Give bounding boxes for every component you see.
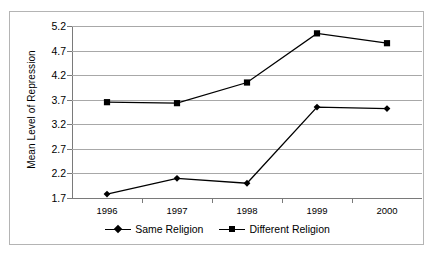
square-marker-icon (104, 99, 110, 105)
square-marker-icon (229, 226, 236, 233)
chart-plot-wrapper: Mean Level of Repression 1.72.22.73.23.7… (10, 12, 425, 246)
y-axis-tick-label: 3.2 (32, 118, 66, 130)
x-axis-tick-labels: 19961997199819992000 (72, 205, 422, 219)
x-axis-tick-mark (282, 198, 283, 203)
legend-entry[interactable]: Different Religion (219, 223, 329, 235)
square-marker-icon (384, 40, 390, 46)
square-marker-icon (244, 79, 250, 85)
diamond-marker-icon (113, 224, 121, 232)
x-axis-tick-mark (352, 198, 353, 203)
y-axis-tick-mark (67, 100, 72, 101)
legend-label: Same Religion (135, 223, 203, 235)
y-axis-tick-mark (67, 124, 72, 125)
diamond-marker-icon (105, 224, 131, 234)
y-axis-tick-label: 5.2 (32, 20, 66, 32)
x-axis-tick-label: 1998 (236, 205, 257, 216)
y-axis-tick-label: 3.7 (32, 94, 66, 106)
y-axis-tick-mark (67, 198, 72, 199)
square-marker-icon (314, 30, 320, 36)
y-axis-tick-label: 4.2 (32, 69, 66, 81)
y-axis-tick-label: 1.7 (32, 192, 66, 204)
x-axis-tick-label: 2000 (376, 205, 397, 216)
series-layer (72, 26, 422, 198)
y-axis-tick-mark (67, 173, 72, 174)
x-axis-tick-label: 1997 (166, 205, 187, 216)
legend-label: Different Religion (249, 223, 329, 235)
y-axis-tick-mark (67, 75, 72, 76)
gridline (72, 198, 422, 199)
y-axis-tick-label: 4.7 (32, 45, 66, 57)
series-line-different-religion (107, 33, 387, 103)
x-axis-tick-mark (142, 198, 143, 203)
y-axis-tick-mark (67, 149, 72, 150)
y-axis-tick-labels: 1.72.22.73.23.74.24.75.2 (32, 26, 66, 198)
diamond-marker-icon (384, 105, 391, 112)
square-marker-icon (174, 100, 180, 106)
y-axis-tick-mark (67, 26, 72, 27)
x-axis-tick-label: 1996 (96, 205, 117, 216)
chart-frame: Mean Level of Repression 1.72.22.73.23.7… (9, 11, 424, 245)
diamond-marker-icon (104, 191, 111, 198)
x-axis-tick-mark (212, 198, 213, 203)
y-axis-tick-mark (67, 51, 72, 52)
square-marker-icon (219, 224, 245, 234)
chart-legend: Same ReligionDifferent Religion (10, 223, 425, 235)
x-axis-tick-label: 1999 (306, 205, 327, 216)
y-axis-tick-label: 2.2 (32, 167, 66, 179)
legend-entry[interactable]: Same Religion (105, 223, 203, 235)
diamond-marker-icon (174, 175, 181, 182)
y-axis-tick-label: 2.7 (32, 143, 66, 155)
